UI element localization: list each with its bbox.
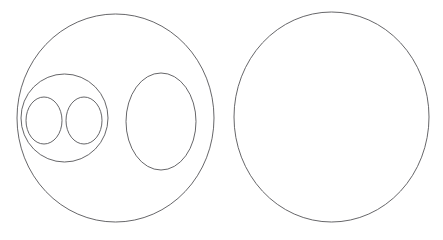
figure-canvas <box>0 0 443 240</box>
inner-ellipse-right <box>126 73 196 170</box>
outer-ellipse <box>17 14 214 222</box>
left-figure-group <box>17 14 214 222</box>
right-figure-group <box>234 12 429 222</box>
small-circle-left <box>26 97 62 144</box>
small-circle-right <box>66 97 102 144</box>
inner-ellipse-left <box>21 74 108 162</box>
standalone-circle <box>234 12 429 222</box>
ellipse-diagram <box>0 0 443 240</box>
